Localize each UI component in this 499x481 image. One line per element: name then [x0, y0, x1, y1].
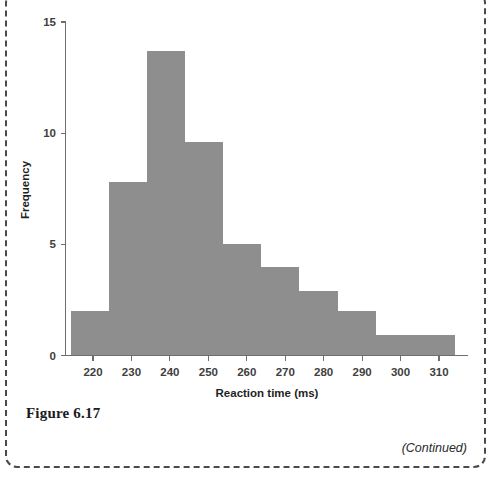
- histogram-bar: [71, 311, 109, 355]
- x-tick-label: 230: [122, 366, 141, 378]
- y-axis-title: Frequency: [19, 160, 31, 219]
- continued-note: (Continued): [402, 441, 467, 455]
- histogram-chart: 051015 220230240250260270280290300310 Re…: [0, 0, 499, 400]
- x-tick-label: 220: [83, 366, 102, 378]
- x-tick-label: 310: [429, 366, 448, 378]
- figure-caption: Figure 6.17: [26, 405, 100, 422]
- histogram-bar: [338, 311, 376, 355]
- histogram-bar: [223, 244, 261, 355]
- histogram-svg: 051015 220230240250260270280290300310 Re…: [0, 0, 499, 400]
- histogram-bar: [261, 267, 299, 356]
- x-ticks-group: 220230240250260270280290300310: [83, 356, 448, 378]
- y-ticks-group: 051015: [43, 16, 65, 362]
- x-tick-label: 240: [160, 366, 179, 378]
- x-tick-label: 270: [276, 366, 295, 378]
- x-tick-label: 300: [391, 366, 410, 378]
- x-axis-title: Reaction time (ms): [216, 387, 319, 399]
- bars-group: [71, 51, 455, 356]
- histogram-bar: [299, 291, 337, 355]
- x-tick-label: 260: [237, 366, 256, 378]
- y-tick-label: 15: [43, 16, 56, 28]
- histogram-bar: [109, 182, 147, 355]
- y-tick-label: 10: [43, 127, 56, 139]
- caption-row: Figure 6.17 (Continued): [0, 405, 499, 435]
- x-tick-label: 280: [314, 366, 333, 378]
- histogram-bar: [376, 335, 455, 355]
- y-tick-label: 5: [50, 238, 57, 250]
- histogram-bar: [147, 51, 185, 356]
- x-tick-label: 290: [353, 366, 372, 378]
- y-tick-label: 0: [50, 350, 56, 362]
- x-tick-label: 250: [199, 366, 218, 378]
- histogram-bar: [185, 142, 223, 355]
